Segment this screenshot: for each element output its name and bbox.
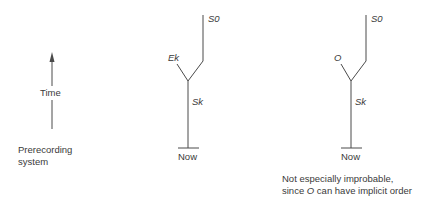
- middle-tree: [177, 15, 203, 148]
- middle-now-label: Now: [178, 151, 197, 162]
- prerecording-caption-line2: system: [18, 156, 48, 167]
- right-s0-label: S0: [371, 13, 383, 24]
- middle-ek-label: Ek: [168, 52, 179, 63]
- right-sk-label: Sk: [355, 96, 366, 107]
- middle-sk-label: Sk: [192, 96, 203, 107]
- caption-pre: since: [282, 185, 307, 196]
- right-o-label: O: [334, 52, 341, 63]
- caption-post: can have implicit order: [314, 185, 412, 196]
- right-caption-line1: Not especially improbable,: [282, 173, 393, 184]
- time-label: Time: [40, 87, 61, 98]
- right-now-label: Now: [341, 151, 360, 162]
- right-tree: [341, 15, 366, 148]
- right-caption-line2: since O can have implicit order: [282, 185, 412, 196]
- middle-s0-label: S0: [208, 13, 220, 24]
- prerecording-caption-line1: Prerecording: [18, 144, 72, 155]
